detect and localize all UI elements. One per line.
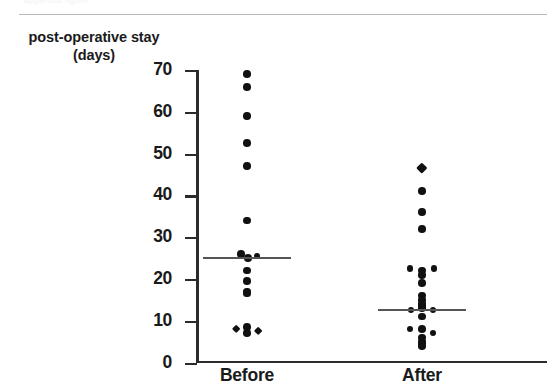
data-point [243, 70, 251, 78]
y-tick-label-60: 60 [153, 103, 172, 121]
y-tick-10 [185, 321, 197, 323]
y-tick-label-20: 20 [153, 270, 172, 288]
x-category-label-after: After [402, 365, 442, 386]
data-point [418, 313, 426, 321]
y-tick-label-40: 40 [153, 186, 172, 204]
x-axis-line [196, 361, 547, 364]
data-point [418, 187, 426, 195]
data-point [243, 267, 251, 275]
data-point [407, 326, 413, 332]
data-point [243, 162, 251, 170]
data-point [243, 83, 251, 91]
y-tick-label-70: 70 [153, 61, 172, 79]
data-point [253, 327, 262, 336]
data-point [418, 271, 426, 279]
y-axis-tick-labels: 010203040506070 [0, 55, 180, 387]
y-tick-0 [185, 363, 197, 365]
data-point [431, 265, 437, 271]
y-tick-label-30: 30 [153, 228, 172, 246]
y-tick-30 [185, 237, 197, 239]
y-tick-50 [185, 154, 197, 156]
data-point [243, 112, 251, 120]
data-point [231, 325, 240, 334]
mean-line-before [203, 257, 291, 259]
data-point [418, 325, 426, 333]
data-point [418, 342, 426, 350]
data-point [243, 277, 251, 285]
data-point [418, 208, 426, 216]
y-tick-20 [185, 279, 197, 281]
cropped-caption-remnant: appendix figure [0, 0, 547, 12]
data-point [417, 163, 428, 174]
y-tick-70 [185, 70, 197, 72]
data-point [243, 139, 251, 147]
data-point [418, 225, 426, 233]
data-point [430, 330, 436, 336]
data-point [243, 290, 251, 298]
x-category-label-before: Before [220, 365, 274, 386]
y-tick-label-10: 10 [153, 312, 172, 330]
y-axis-title-line1: post-operative stay [28, 29, 159, 45]
cropped-caption-text: appendix figure [24, 0, 89, 5]
data-point [243, 329, 251, 337]
y-tick-label-50: 50 [153, 145, 172, 163]
plot-area [180, 55, 547, 387]
mean-line-after [378, 309, 466, 311]
y-tick-label-0: 0 [163, 354, 172, 372]
data-point [418, 279, 426, 287]
chart-canvas: appendix figure post-operative stay (day… [0, 0, 547, 387]
data-point [407, 265, 413, 271]
header-divider [19, 14, 547, 15]
y-tick-60 [185, 112, 197, 114]
y-tick-40 [185, 195, 197, 197]
data-point [243, 217, 251, 225]
